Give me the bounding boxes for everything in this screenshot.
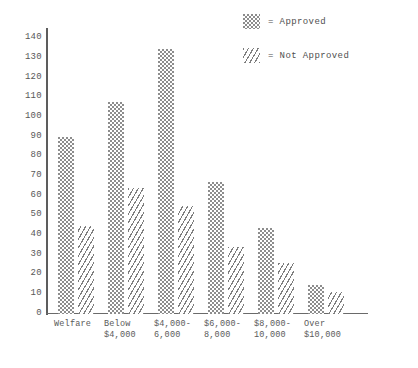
y-tick-label: 130: [25, 53, 42, 62]
y-tick-label: 100: [25, 112, 42, 121]
y-tick-label: 0: [36, 309, 42, 318]
y-tick-label: 60: [31, 191, 42, 200]
y-tick-label: 140: [25, 33, 42, 42]
y-tick-label: 20: [31, 269, 42, 278]
x-axis-category-label: $8,000- 10,000: [254, 319, 291, 341]
y-tick-label: 10: [31, 289, 42, 298]
x-axis-category-label: Welfare: [54, 319, 91, 330]
y-tick-label: 110: [25, 92, 42, 101]
y-tick-label: 50: [31, 210, 42, 219]
y-axis-tick-labels: 0102030405060708090100110120130140: [0, 0, 42, 368]
bar-approved: [208, 182, 224, 314]
legend-item-approved: = Approved: [243, 14, 413, 48]
bar-not-approved: [178, 206, 194, 314]
bar-group: [108, 28, 148, 314]
legend-label-not-approved: = Not Approved: [268, 51, 349, 62]
y-tick-label: 90: [31, 132, 42, 141]
bar-group: [58, 28, 98, 314]
x-axis-category-label: $6,000- 8,000: [204, 319, 241, 341]
y-tick-label: 40: [31, 230, 42, 239]
legend-item-not-approved: = Not Approved: [243, 48, 413, 82]
bar-approved: [158, 49, 174, 314]
bar-approved: [258, 228, 274, 314]
y-tick-label: 80: [31, 151, 42, 160]
x-axis-category-label: Below $4,000: [104, 319, 136, 341]
not-approved-swatch-icon: [243, 48, 260, 63]
y-tick-label: 120: [25, 73, 42, 82]
bar-not-approved: [278, 263, 294, 314]
bar-chart: 0102030405060708090100110120130140 = App…: [0, 0, 418, 368]
bar-approved: [308, 285, 324, 314]
bar-not-approved: [228, 247, 244, 314]
bar-approved: [108, 102, 124, 314]
x-axis-category-label: Over $10,000: [304, 319, 341, 341]
y-tick-label: 30: [31, 250, 42, 259]
approved-swatch-icon: [243, 14, 260, 29]
chart-legend: = Approved = Not Approved: [243, 14, 413, 82]
legend-label-approved: = Approved: [268, 17, 326, 28]
bar-group: [158, 28, 198, 314]
bar-group: [208, 28, 248, 314]
bar-not-approved: [328, 292, 344, 314]
y-tick-label: 70: [31, 171, 42, 180]
bar-not-approved: [78, 226, 94, 314]
x-axis-category-label: $4,000- 6,000: [154, 319, 191, 341]
bar-not-approved: [128, 188, 144, 314]
bar-approved: [58, 137, 74, 314]
